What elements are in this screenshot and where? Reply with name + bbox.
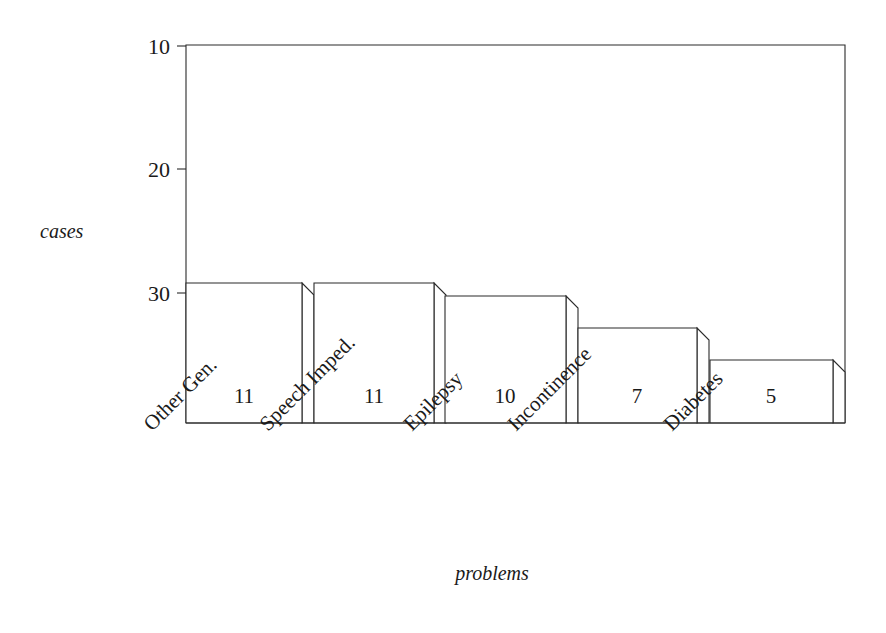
bar-value-label-2: 10: [495, 384, 516, 408]
y-axis-title: cases: [40, 220, 84, 242]
bar-4: [710, 360, 845, 423]
y-axis-tick-labels: 102030: [148, 34, 170, 306]
bar-value-label-1: 11: [364, 384, 384, 408]
bar-chart: 102030 11111075 Other Gen.Speech Imped.E…: [0, 0, 886, 633]
chart-container: 102030 11111075 Other Gen.Speech Imped.E…: [0, 0, 886, 633]
y-axis-tick-marks: [177, 46, 186, 293]
bar-value-label-3: 7: [632, 384, 643, 408]
y-tick-label-10: 30: [148, 281, 170, 306]
y-tick-label-30: 10: [148, 34, 170, 59]
bar-value-label-4: 5: [766, 384, 777, 408]
x-axis-title: problems: [453, 562, 529, 585]
bar-side-face-4: [833, 360, 845, 423]
bar-value-label-0: 11: [234, 384, 254, 408]
y-tick-label-20: 20: [148, 157, 170, 182]
